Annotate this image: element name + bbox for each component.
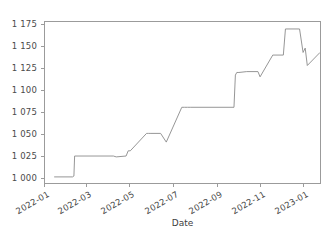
- y-tick-label: 1 100: [12, 85, 37, 95]
- x-tick-mark: [217, 184, 218, 187]
- x-tick-label: 2022-03: [50, 189, 93, 220]
- y-tick-label: 1 050: [12, 129, 37, 139]
- x-tick-label: 2022-05: [93, 189, 136, 220]
- x-tick-mark: [44, 184, 45, 187]
- x-tick-label: 2022-01: [8, 189, 51, 220]
- y-tick-label: 1 150: [12, 41, 37, 51]
- plot-area: [44, 21, 321, 184]
- x-tick-mark: [173, 184, 174, 187]
- chart-figure: 1 1751 1501 1251 1001 0751 0501 0251 000…: [0, 0, 331, 239]
- x-tick-label: 2022-07: [136, 189, 179, 220]
- x-tick-mark: [260, 184, 261, 187]
- x-axis-title: Date: [44, 218, 321, 228]
- x-axis: 2022-012022-032022-052022-072022-092022-…: [44, 184, 321, 239]
- x-tick-mark: [303, 184, 304, 187]
- y-tick-label: 1 175: [12, 19, 37, 29]
- x-tick-mark: [129, 184, 130, 187]
- y-tick-label: 1 075: [12, 107, 37, 117]
- y-tick-label: 1 125: [12, 63, 37, 73]
- x-tick-label: 2022-11: [224, 189, 267, 220]
- y-axis: 1 1751 1501 1251 1001 0751 0501 0251 000: [0, 21, 44, 184]
- x-tick-mark: [86, 184, 87, 187]
- x-tick-label: 2023-01: [267, 189, 310, 220]
- y-tick-label: 1 000: [12, 173, 37, 183]
- y-tick-label: 1 025: [12, 151, 37, 161]
- cropped-title-remnant: [44, 0, 284, 2]
- line-series: [45, 22, 320, 183]
- plot-clip: [45, 22, 320, 183]
- x-tick-label: 2022-09: [180, 189, 223, 220]
- series-line: [54, 29, 320, 177]
